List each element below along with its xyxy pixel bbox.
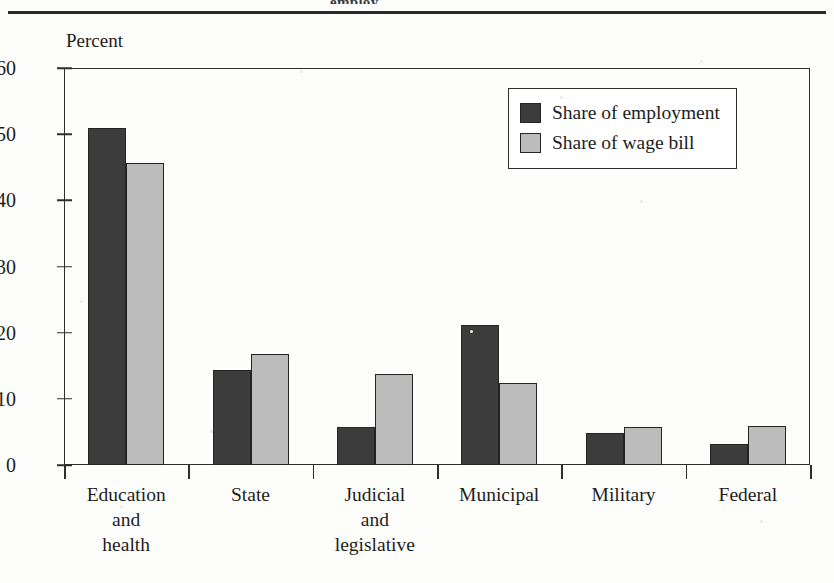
y-axis: 0102030405060 bbox=[0, 0, 64, 583]
y-axis-tick-mark bbox=[57, 398, 72, 400]
x-axis-tick-mark bbox=[810, 465, 812, 479]
x-axis-category-label: State bbox=[231, 482, 270, 507]
y-axis-tick-label: 60 bbox=[0, 57, 16, 80]
top-rule-divider bbox=[8, 11, 826, 14]
scan-speckle bbox=[760, 520, 763, 523]
y-axis-tick-mark bbox=[57, 266, 72, 268]
legend-item-wage-bill: Share of wage bill bbox=[520, 128, 720, 158]
light-swatch-icon bbox=[520, 133, 541, 153]
y-axis-tick-label: 40 bbox=[0, 189, 16, 212]
y-axis-tick-mark bbox=[57, 200, 72, 202]
y-axis-tick-label: 0 bbox=[6, 454, 16, 477]
chart-legend: Share of employment Share of wage bill bbox=[508, 88, 737, 169]
x-axis-tick-mark bbox=[188, 465, 190, 479]
y-axis-title: Percent bbox=[66, 30, 123, 52]
scan-speckle bbox=[700, 60, 703, 63]
x-axis-tick-mark bbox=[313, 465, 315, 479]
y-axis-tick-label: 10 bbox=[0, 387, 16, 410]
x-axis-tick-mark bbox=[437, 465, 439, 479]
y-axis-tick-label: 50 bbox=[0, 123, 16, 146]
y-axis-tick-mark bbox=[57, 332, 72, 334]
y-axis-tick-label: 30 bbox=[0, 255, 16, 278]
figure-root: employ Percent 0102030405060 Education a… bbox=[0, 0, 834, 583]
clipped-caption-text: employ bbox=[330, 0, 510, 4]
y-axis-tick-mark bbox=[57, 133, 72, 135]
x-axis-category-label: Federal bbox=[719, 482, 777, 507]
x-axis-category-label: Military bbox=[592, 482, 656, 507]
dark-swatch-icon bbox=[520, 103, 541, 123]
x-axis-category-label: Municipal bbox=[459, 482, 539, 507]
x-axis-category-label: Education and health bbox=[87, 482, 166, 557]
x-axis-tick-mark bbox=[64, 465, 66, 479]
y-axis-tick-label: 20 bbox=[0, 321, 16, 344]
legend-label-employment: Share of employment bbox=[552, 102, 720, 124]
x-axis-category-label: Judicial and legislative bbox=[335, 482, 415, 557]
x-axis-tick-mark bbox=[561, 465, 563, 479]
legend-item-employment: Share of employment bbox=[520, 98, 720, 128]
legend-label-wage-bill: Share of wage bill bbox=[552, 132, 694, 154]
y-axis-tick-mark bbox=[57, 67, 72, 69]
x-axis-tick-mark bbox=[686, 465, 688, 479]
